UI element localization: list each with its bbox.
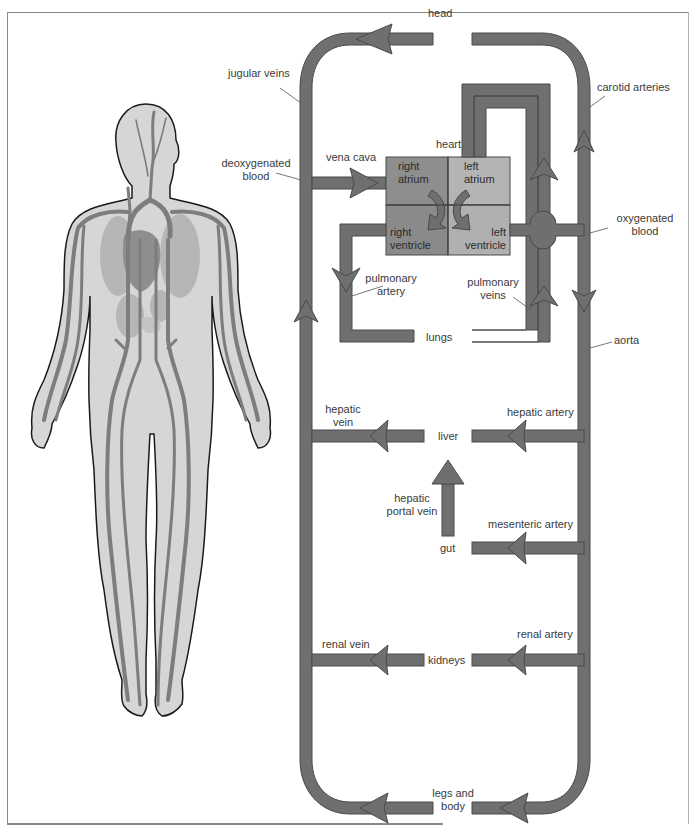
- label-hepatic-vein: hepaticvein: [318, 403, 368, 429]
- label-hepatic-artery: hepatic artery: [507, 406, 574, 419]
- renal-vein-pipe: [312, 654, 424, 666]
- hepatic-artery-pipe: [472, 430, 584, 442]
- label-right-ventricle: rightventricle: [390, 226, 431, 252]
- label-legs-and-body: legs andbody: [426, 787, 480, 813]
- label-pulmonary-veins: pulmonaryveins: [462, 276, 524, 302]
- hepatic-artery-arrow: [508, 420, 526, 452]
- label-oxygenated-blood: oxygenatedblood: [610, 212, 680, 238]
- vena-cava-arrow: [350, 168, 378, 198]
- aorta-outflow-pipe: [510, 211, 584, 249]
- label-vena-cava: vena cava: [326, 151, 376, 164]
- hepatic-vein-arrow: [370, 420, 388, 452]
- label-mesenteric-artery: mesenteric artery: [488, 518, 573, 531]
- legs-artery-arrow: [500, 793, 528, 823]
- renal-artery-arrow: [508, 645, 526, 675]
- label-deoxygenated-blood: deoxygenated blood: [216, 157, 296, 183]
- label-gut: gut: [440, 542, 455, 555]
- label-renal-artery: renal artery: [517, 628, 573, 641]
- label-right-atrium: rightatrium: [398, 160, 429, 186]
- label-left-atrium: leftatrium: [464, 160, 495, 186]
- mesenteric-artery-pipe: [472, 542, 584, 554]
- mesenteric-artery-arrow: [508, 532, 526, 564]
- label-head: head: [428, 7, 452, 20]
- label-heart: heart: [436, 138, 461, 151]
- hepatic-vein-pipe: [312, 430, 424, 442]
- head-vein-arrow: [356, 24, 392, 54]
- label-aorta: aorta: [614, 334, 639, 347]
- label-carotid-arteries: carotid arteries: [597, 81, 670, 94]
- hepatic-portal-vein-arrow: [432, 460, 464, 484]
- label-jugular-veins: jugular veins: [228, 67, 290, 80]
- label-pulmonary-artery: pulmonaryartery: [360, 272, 422, 298]
- renal-vein-arrow: [370, 645, 388, 675]
- label-renal-vein: renal vein: [322, 638, 370, 651]
- label-left-ventricle: leftventricle: [462, 226, 506, 252]
- label-hepatic-portal-vein: hepaticportal vein: [382, 492, 442, 518]
- hepatic-portal-vein-pipe: [442, 480, 454, 536]
- label-liver: liver: [438, 430, 458, 443]
- renal-artery-pipe: [472, 654, 584, 666]
- legs-vein-arrow: [360, 793, 388, 823]
- label-kidneys: kidneys: [428, 654, 465, 667]
- label-lungs: lungs: [426, 331, 452, 344]
